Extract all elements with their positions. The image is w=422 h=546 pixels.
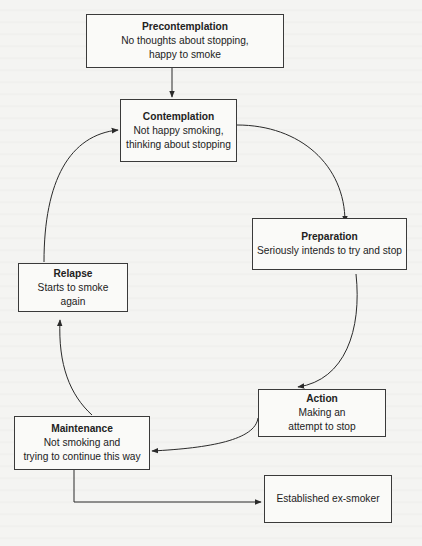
node-title: Preparation <box>301 230 358 244</box>
node-description: Not happy smoking, thinking about stoppi… <box>126 124 231 152</box>
arrow-maintenance-to-established <box>74 469 261 502</box>
node-title: Precontemplation <box>142 20 228 34</box>
node-description: No thoughts about stopping, happy to smo… <box>121 34 248 62</box>
diagram-canvas: Precontemplation No thoughts about stopp… <box>0 0 422 546</box>
arrow-relapse-to-contemplation <box>44 130 118 262</box>
node-preparation: Preparation Seriously intends to try and… <box>252 218 407 270</box>
node-title: Contemplation <box>143 110 214 124</box>
node-title: Action <box>306 392 338 406</box>
node-title: Maintenance <box>51 422 113 436</box>
node-established-ex-smoker: Established ex-smoker <box>264 475 392 523</box>
arrow-maintenance-to-relapse <box>60 320 92 415</box>
arrow-action-to-maintenance <box>152 418 258 451</box>
node-maintenance: Maintenance Not smoking and trying to co… <box>14 416 150 470</box>
node-title: Relapse <box>53 267 92 281</box>
node-relapse: Relapse Starts to smoke again <box>18 263 128 312</box>
node-action: Action Making an attempt to stop <box>258 389 386 437</box>
node-contemplation: Contemplation Not happy smoking, thinkin… <box>120 99 237 162</box>
node-description: Established ex-smoker <box>276 492 379 506</box>
node-precontemplation: Precontemplation No thoughts about stopp… <box>86 14 284 68</box>
node-description: Not smoking and trying to continue this … <box>23 436 140 464</box>
node-description: Seriously intends to try and stop <box>257 244 402 258</box>
arrow-contemplation-to-preparation <box>237 125 345 222</box>
node-description: Starts to smoke again <box>38 281 109 309</box>
arrow-preparation-to-action <box>298 274 357 387</box>
node-description: Making an attempt to stop <box>288 406 355 434</box>
